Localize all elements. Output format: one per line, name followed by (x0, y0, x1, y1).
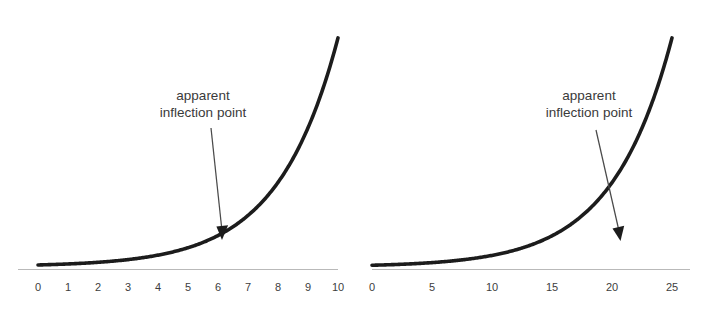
right-tick-25: 25 (666, 281, 678, 293)
right-tick-10: 10 (486, 281, 498, 293)
right-tick-15: 15 (546, 281, 558, 293)
left-annotation-arrow (211, 128, 228, 240)
left-annotation-line2: inflection point (160, 105, 247, 120)
right-exponential-curve (372, 38, 672, 265)
left-tick-6: 6 (215, 281, 221, 293)
right-tick-0: 0 (369, 281, 375, 293)
left-tick-1: 1 (65, 281, 71, 293)
left-tick-9: 9 (305, 281, 311, 293)
left-exponential-curve (38, 38, 338, 265)
left-tick-0: 0 (35, 281, 41, 293)
left-tick-4: 4 (155, 281, 161, 293)
left-tick-2: 2 (95, 281, 101, 293)
right-annotation-line1: apparent (562, 88, 616, 103)
exponential-inflection-figure: apparent inflection point 0 1 2 3 4 5 6 … (0, 0, 713, 314)
left-tick-10: 10 (332, 281, 344, 293)
right-annotation-line2: inflection point (546, 105, 633, 120)
left-tick-3: 3 (125, 281, 131, 293)
left-arrow-shaft (211, 128, 222, 231)
left-tick-7: 7 (245, 281, 251, 293)
left-chart-svg: apparent inflection point 0 1 2 3 4 5 6 … (0, 0, 355, 314)
right-chart-svg: apparent inflection point 0 5 10 15 20 2… (355, 0, 713, 314)
right-tick-labels: 0 5 10 15 20 25 (369, 281, 678, 293)
left-tick-8: 8 (275, 281, 281, 293)
left-annotation-line1: apparent (176, 88, 230, 103)
right-arrow-head-icon (613, 226, 625, 241)
right-chart-panel: apparent inflection point 0 5 10 15 20 2… (355, 0, 713, 314)
left-chart-panel: apparent inflection point 0 1 2 3 4 5 6 … (0, 0, 355, 314)
right-tick-5: 5 (429, 281, 435, 293)
left-tick-labels: 0 1 2 3 4 5 6 7 8 9 10 (35, 281, 344, 293)
right-tick-20: 20 (606, 281, 618, 293)
left-tick-5: 5 (185, 281, 191, 293)
